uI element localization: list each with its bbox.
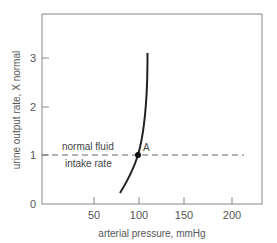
y-tick-label-1: 1 xyxy=(30,149,36,161)
y-tick-label-0: 0 xyxy=(30,198,36,210)
chart: 3 2 1 0 50 100 150 200 arterial pressure… xyxy=(0,0,277,243)
x-tick-label-200: 200 xyxy=(223,209,241,221)
normal-fluid-label: normal fluid xyxy=(62,141,114,152)
x-tick-label-50: 50 xyxy=(88,209,100,221)
x-tick-label-150: 150 xyxy=(175,209,193,221)
renal-output-curve xyxy=(120,53,148,193)
plot-frame xyxy=(42,14,262,204)
equilibrium-point-a xyxy=(135,152,141,158)
x-axis-title: arterial pressure, mmHg xyxy=(98,228,205,239)
point-a-label: A xyxy=(143,142,150,153)
y-axis-title: urine output rate, X normal xyxy=(11,51,22,169)
y-tick-label-2: 2 xyxy=(30,101,36,113)
intake-rate-label: intake rate xyxy=(65,158,112,169)
x-tick-label-100: 100 xyxy=(130,209,148,221)
y-tick-label-3: 3 xyxy=(30,52,36,64)
